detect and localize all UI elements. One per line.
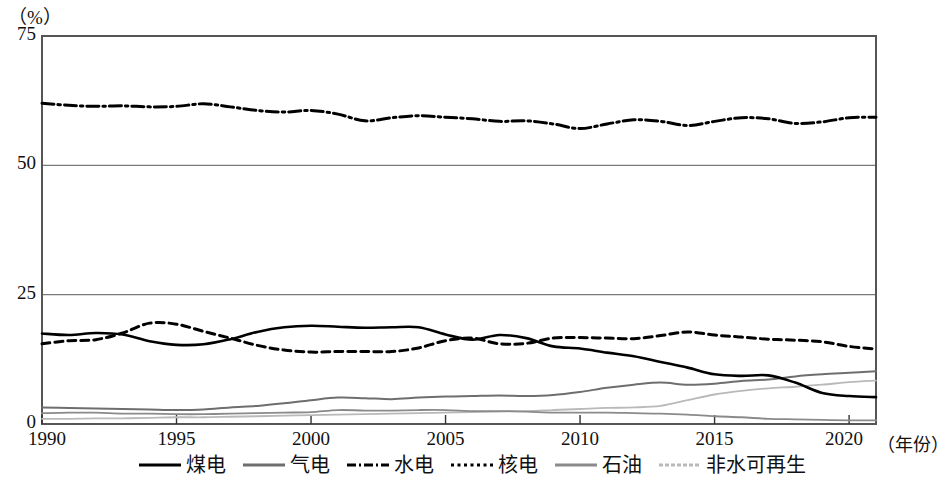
line-chart-plot — [0, 0, 945, 480]
legend-label-1: 气电 — [290, 455, 330, 475]
legend-label-3: 核电 — [498, 455, 538, 475]
legend-item-0[interactable]: 煤电 — [139, 455, 226, 475]
legend-swatch-0 — [139, 459, 181, 471]
series-layer — [42, 103, 876, 420]
gridlines — [42, 165, 876, 294]
x-tick-label-1995: 1995 — [142, 428, 212, 450]
legend-swatch-4 — [555, 459, 597, 471]
legend-label-4: 石油 — [602, 455, 642, 475]
legend-swatch-3 — [451, 459, 493, 471]
x-tick-label-2010: 2010 — [545, 428, 615, 450]
x-tick-label-2020: 2020 — [809, 428, 879, 450]
legend-item-2[interactable]: 水电 — [347, 455, 434, 475]
x-tick-label-2000: 2000 — [276, 428, 346, 450]
plot-frame — [42, 36, 876, 424]
legend-swatch-2 — [347, 459, 389, 471]
legend-item-3[interactable]: 核电 — [451, 455, 538, 475]
chart-figure: （%） 0255075 1990199520002005201020152020… — [0, 0, 945, 480]
legend-item-1[interactable]: 气电 — [243, 455, 330, 475]
legend-item-4[interactable]: 石油 — [555, 455, 642, 475]
y-tick-label-75: 75 — [0, 23, 36, 45]
series-line-hydro — [42, 103, 876, 128]
legend-swatch-5 — [659, 459, 701, 471]
y-tick-label-50: 50 — [0, 152, 36, 174]
x-tick-label-1990: 1990 — [12, 428, 82, 450]
x-tick-label-2015: 2015 — [680, 428, 750, 450]
y-tick-label-25: 25 — [0, 282, 36, 304]
plot-border — [42, 36, 876, 424]
x-tick-label-2005: 2005 — [411, 428, 481, 450]
legend-label-2: 水电 — [394, 455, 434, 475]
legend-label-5: 非水可再生 — [706, 455, 806, 475]
chart-legend: 煤电气电水电核电石油非水可再生 — [0, 449, 945, 480]
legend-swatch-1 — [243, 459, 285, 471]
legend-label-0: 煤电 — [186, 455, 226, 475]
legend-item-5[interactable]: 非水可再生 — [659, 455, 806, 475]
